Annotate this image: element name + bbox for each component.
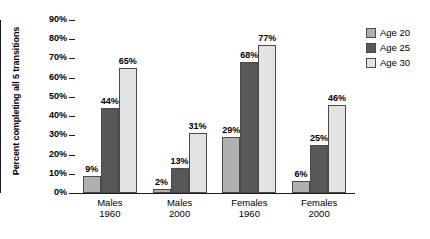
x-axis-group-label: Females2000 [274, 197, 364, 219]
y-axis-tick-label: 80% [31, 34, 67, 43]
bar[interactable] [83, 176, 101, 193]
legend-swatch-age-20 [366, 28, 376, 38]
y-axis-tick-label: 20% [31, 150, 67, 159]
legend-label-age-20: Age 20 [380, 28, 410, 38]
bar[interactable] [153, 189, 171, 193]
figure-caption [30, 233, 400, 239]
bar[interactable] [119, 68, 137, 193]
bar-value-label: 31% [181, 122, 215, 131]
bar[interactable] [222, 137, 240, 193]
bar-value-label: 77% [250, 34, 284, 43]
y-axis-tick-label: 10% [31, 169, 67, 178]
bar[interactable] [171, 168, 189, 193]
legend-label-age-30: Age 30 [380, 58, 410, 68]
y-axis-tick-label: 30% [31, 130, 67, 139]
legend-item-age-30[interactable]: Age 30 [366, 56, 430, 69]
y-axis-tick-label: 0% [31, 188, 67, 197]
legend-item-age-25[interactable]: Age 25 [366, 41, 430, 54]
x-axis-group-label-line1: Females [274, 197, 364, 208]
y-axis-line [0, 20, 1, 193]
x-axis-group-label-line2: 2000 [274, 208, 364, 219]
legend-swatch-age-30 [366, 58, 376, 68]
bar[interactable] [189, 133, 207, 193]
legend-label-age-25: Age 25 [380, 43, 410, 53]
bar-chart: Percent completing all 5 transitions 0%1… [0, 0, 430, 239]
bar[interactable] [328, 105, 346, 193]
bar[interactable] [101, 108, 119, 193]
x-axis-line [75, 193, 355, 194]
bar[interactable] [240, 62, 258, 193]
y-axis-title: Percent completing all 5 transitions [11, 11, 21, 191]
legend-swatch-age-25 [366, 43, 376, 53]
bar-value-label: 46% [320, 94, 354, 103]
plot-area: 9%44%65%2%13%31%29%68%77%6%25%46% [75, 20, 354, 193]
y-axis-tick-label: 90% [31, 15, 67, 24]
bar-value-label: 65% [111, 57, 145, 66]
legend: Age 20 Age 25 Age 30 [366, 26, 430, 71]
bar[interactable] [292, 181, 310, 193]
bar[interactable] [258, 45, 276, 193]
y-axis-tick-label: 70% [31, 53, 67, 62]
y-axis-tick-label: 60% [31, 73, 67, 82]
y-axis-tick-label: 40% [31, 111, 67, 120]
legend-item-age-20[interactable]: Age 20 [366, 26, 430, 39]
bar[interactable] [310, 145, 328, 193]
y-axis-tick-label: 50% [31, 92, 67, 101]
